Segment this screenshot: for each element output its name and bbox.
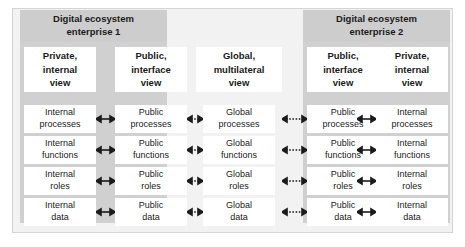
cell-internal-roles-left: Internal roles	[24, 167, 96, 195]
cell-global-roles: Global roles	[203, 167, 275, 195]
cell-line2: processes	[130, 119, 171, 131]
cell-internal-processes-right: Internal processes	[376, 105, 448, 133]
cell-line1: Public	[130, 107, 171, 119]
cell-line2: roles	[45, 181, 75, 193]
cell-line1: Global	[218, 107, 259, 119]
column-header-line2: interface	[323, 63, 363, 76]
enterprise-1-title-line1: Digital ecosystem	[53, 13, 134, 26]
cell-line2: data	[226, 212, 252, 224]
cell-line1: Global	[226, 169, 252, 181]
cell-internal-functions-right: Internal functions	[376, 136, 448, 164]
cell-line1: Internal	[45, 169, 75, 181]
column-header-line2: internal	[395, 63, 429, 76]
cell-line2: data	[397, 212, 427, 224]
cell-line2: functions	[42, 150, 78, 162]
cell-line2: roles	[397, 181, 427, 193]
cell-line1: Internal	[391, 107, 432, 119]
cell-line1: Internal	[45, 200, 75, 212]
cell-line2: roles	[331, 181, 356, 193]
column-header-line3: view	[43, 76, 77, 89]
column-header-line3: view	[395, 76, 429, 89]
cell-internal-data-right: Internal data	[376, 198, 448, 226]
cell-line1: Public	[139, 200, 164, 212]
enterprise-2-title-line1: Digital ecosystem	[336, 13, 417, 26]
cell-internal-processes-left: Internal processes	[24, 105, 96, 133]
cell-internal-roles-right: Internal roles	[376, 167, 448, 195]
cell-line1: Global	[226, 200, 252, 212]
column-header-private-internal-left: Private, internal view	[24, 47, 96, 92]
column-header-line2: internal	[43, 63, 77, 76]
column-header-line3: view	[323, 76, 363, 89]
cell-line1: Internal	[42, 138, 78, 150]
enterprise-1-title: Digital ecosystem enterprise 1	[20, 10, 167, 42]
cell-line1: Public	[322, 107, 363, 119]
cell-line1: Public	[139, 169, 164, 181]
cell-global-processes: Global processes	[203, 105, 275, 133]
cell-line2: data	[45, 212, 75, 224]
cell-line2: processes	[218, 119, 259, 131]
column-header-line2: multilateral	[214, 63, 265, 76]
cell-global-functions: Global functions	[203, 136, 275, 164]
cell-line1: Public	[331, 200, 356, 212]
cell-line2: functions	[133, 150, 169, 162]
cell-line2: data	[331, 212, 356, 224]
cell-public-roles-right: Public roles	[307, 167, 379, 195]
column-header-line1: Public,	[323, 49, 363, 62]
column-header-public-interface-left: Public, interface view	[115, 47, 187, 92]
cell-public-processes-right: Public processes	[307, 105, 379, 133]
enterprise-2-title-line2: enterprise 2	[336, 26, 417, 39]
column-header-line1: Private,	[43, 49, 77, 62]
enterprise-2-title: Digital ecosystem enterprise 2	[303, 10, 450, 42]
column-header-line1: Public,	[131, 49, 171, 62]
column-header-public-interface-right: Public, interface view	[307, 47, 379, 92]
column-header-global-multilateral: Global, multilateral view	[196, 47, 282, 92]
cell-line1: Internal	[39, 107, 80, 119]
cell-line2: processes	[391, 119, 432, 131]
cell-public-functions-left: Public functions	[115, 136, 187, 164]
column-header-line1: Global,	[214, 49, 265, 62]
cell-global-data: Global data	[203, 198, 275, 226]
cell-public-data-right: Public data	[307, 198, 379, 226]
cell-internal-functions-left: Internal functions	[24, 136, 96, 164]
cell-line2: functions	[221, 150, 257, 162]
cell-public-roles-left: Public roles	[115, 167, 187, 195]
cell-line2: processes	[322, 119, 363, 131]
column-header-line2: interface	[131, 63, 171, 76]
cell-line1: Global	[221, 138, 257, 150]
cell-line1: Public	[331, 169, 356, 181]
cell-line2: functions	[325, 150, 361, 162]
cell-line1: Internal	[394, 138, 430, 150]
cell-line1: Internal	[397, 200, 427, 212]
cell-public-processes-left: Public processes	[115, 105, 187, 133]
cell-line2: roles	[226, 181, 252, 193]
digital-ecosystem-diagram: Digital ecosystem enterprise 1 Digital e…	[0, 0, 465, 247]
cell-line2: data	[139, 212, 164, 224]
cell-line2: functions	[394, 150, 430, 162]
cell-public-data-left: Public data	[115, 198, 187, 226]
column-header-line3: view	[131, 76, 171, 89]
cell-line1: Public	[325, 138, 361, 150]
cell-line1: Internal	[397, 169, 427, 181]
column-header-line1: Private,	[395, 49, 429, 62]
cell-line2: roles	[139, 181, 164, 193]
column-header-line3: view	[214, 76, 265, 89]
column-header-private-internal-right: Private, internal view	[376, 47, 448, 92]
cell-internal-data-left: Internal data	[24, 198, 96, 226]
enterprise-1-title-line2: enterprise 1	[53, 26, 134, 39]
cell-line1: Public	[133, 138, 169, 150]
cell-line2: processes	[39, 119, 80, 131]
cell-public-functions-right: Public functions	[307, 136, 379, 164]
